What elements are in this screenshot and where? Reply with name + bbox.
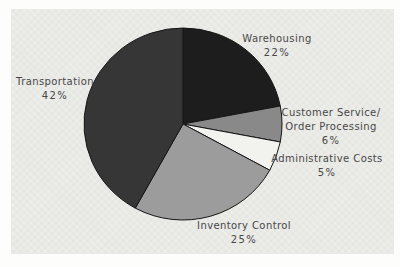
slice-label: Inventory Control	[179, 219, 309, 233]
slice-percent: 5%	[262, 166, 392, 180]
slice-label: Customer Service/	[266, 106, 396, 120]
slice-label: Administrative Costs	[262, 152, 392, 166]
figure-page: Transportation 42% Warehousing 22% Custo…	[0, 0, 400, 267]
pie-label-transportation: Transportation 42%	[0, 75, 120, 103]
slice-percent: 22%	[212, 46, 342, 60]
pie-label-warehousing: Warehousing 22%	[212, 32, 342, 60]
pie-label-administrative-costs: Administrative Costs 5%	[262, 152, 392, 180]
pie-label-customer-service: Customer Service/ Order Processing 6%	[266, 106, 396, 148]
slice-label: Transportation	[0, 75, 120, 89]
pie-label-inventory-control: Inventory Control 25%	[179, 219, 309, 247]
slice-percent: 6%	[266, 134, 396, 148]
slice-label: Warehousing	[212, 32, 342, 46]
slice-percent: 25%	[179, 233, 309, 247]
slice-label: Order Processing	[266, 120, 396, 134]
slice-percent: 42%	[0, 89, 120, 103]
